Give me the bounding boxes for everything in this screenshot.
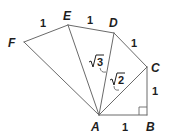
length-label-de: 1	[87, 14, 93, 26]
right-angle-marker-icon	[139, 107, 147, 115]
length-label-ab: 1	[122, 121, 128, 133]
spiral-diagram: A B C D E F 1 1 1 1 1 3 2	[0, 0, 169, 136]
label-pointer-sqrt2-icon	[114, 86, 119, 90]
length-label-cd: 1	[131, 37, 137, 49]
length-label-ef: 1	[40, 17, 46, 29]
vertex-label-c: C	[151, 61, 160, 75]
vertex-label-f: F	[8, 36, 16, 50]
spoke-af	[24, 42, 99, 115]
radicand-3: 3	[97, 56, 103, 68]
spoke-ae	[68, 25, 99, 115]
vertex-label-e: E	[63, 9, 72, 23]
label-pointer-sqrt3-icon	[100, 68, 106, 72]
vertex-label-b: B	[146, 120, 155, 134]
vertex-label-d: D	[109, 16, 118, 30]
vertex-label-a: A	[90, 120, 100, 134]
length-label-bc: 1	[152, 85, 158, 97]
radicand-2: 2	[118, 74, 124, 86]
sqrt3-label: 3	[89, 55, 104, 68]
edge-de	[68, 25, 114, 33]
sqrt2-label: 2	[110, 73, 125, 86]
